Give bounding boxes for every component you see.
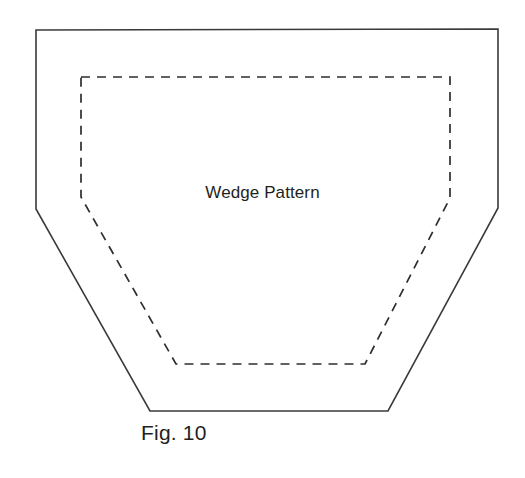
wedge-pattern-label: Wedge Pattern	[0, 183, 525, 203]
wedge-outer-cut-line	[36, 29, 498, 411]
figure-container: Wedge Pattern Fig. 10	[0, 0, 525, 478]
figure-caption: Fig. 10	[141, 420, 207, 446]
wedge-pattern-drawing	[0, 0, 525, 478]
